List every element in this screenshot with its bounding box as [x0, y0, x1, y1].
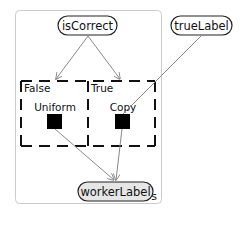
- factor-graph: workers False True Uniform Copy isCorrec…: [0, 0, 242, 226]
- factor-label-uniform: Uniform: [34, 101, 76, 113]
- node-workerlabel[interactable]: workerLabel: [78, 182, 153, 201]
- node-truelabel[interactable]: trueLabel: [171, 16, 232, 35]
- node-truelabel-label: trueLabel: [174, 19, 229, 33]
- gate-case-true: True: [90, 82, 113, 94]
- node-iscorrect[interactable]: isCorrect: [58, 16, 117, 35]
- gate-case-false: False: [24, 82, 50, 94]
- factor-uniform[interactable]: [47, 114, 62, 129]
- factor-copy[interactable]: [115, 114, 130, 129]
- factor-label-copy: Copy: [110, 101, 137, 113]
- node-iscorrect-label: isCorrect: [62, 19, 114, 33]
- node-workerlabel-label: workerLabel: [80, 185, 150, 199]
